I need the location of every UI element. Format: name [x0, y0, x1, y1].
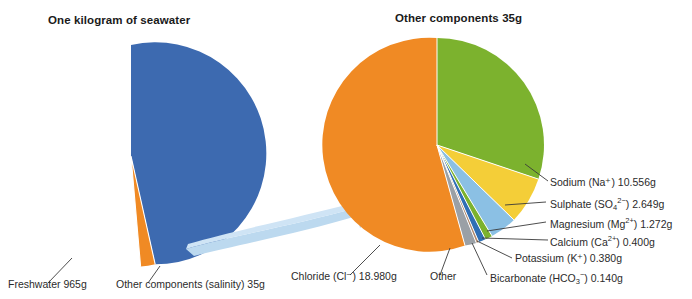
- left-chart-title: One kilogram of seawater: [48, 14, 190, 26]
- label-sulphate: Sulphate (SO42−) 2.649g: [550, 196, 664, 210]
- label-bicarbonate: Bicarbonate (HCO3−) 0.140g: [490, 270, 623, 284]
- label-magnesium-superscript: 2+: [625, 216, 634, 225]
- label-potassium: Potassium (K⁺) 0.380g: [515, 252, 622, 264]
- label-sulphate-suffix: ) 2.649g: [626, 198, 665, 210]
- label-bicarbonate-subscript: 3: [576, 277, 580, 286]
- label-magnesium: Magnesium (Mg2+) 1.272g: [550, 216, 672, 230]
- label-bicarbonate-suffix: ) 0.140g: [584, 272, 623, 284]
- label-freshwater: Freshwater 965g: [8, 278, 87, 290]
- seawater-composition-figure: One kilogram of seawater Other component…: [0, 0, 692, 299]
- label-sulphate-subscript: 4: [613, 203, 617, 212]
- label-sulphate-superscript: 2−: [617, 196, 626, 205]
- leader-line-calcium: [482, 238, 548, 240]
- label-other-components-salinity: Other components (salinity) 35g: [116, 278, 265, 290]
- right-pie-chart: [322, 38, 544, 252]
- label-sodium: Sodium (Na⁺) 10.556g: [550, 176, 656, 188]
- label-bicarbonate-prefix: Bicarbonate (HCO: [490, 272, 576, 284]
- label-magnesium-suffix: ) 1.272g: [634, 218, 673, 230]
- label-other: Other: [430, 270, 456, 282]
- label-calcium-suffix: ) 0.400g: [616, 236, 655, 248]
- right-chart-title: Other components 35g: [395, 12, 522, 24]
- label-magnesium-prefix: Magnesium (Mg: [550, 218, 625, 230]
- label-chloride: Chloride (Cl⁻) 18.980g: [291, 270, 397, 282]
- leader-line-bicarbonate: [472, 243, 487, 275]
- label-sulphate-prefix: Sulphate (SO: [550, 198, 613, 210]
- label-calcium: Calcium (Ca2+) 0.400g: [550, 234, 655, 248]
- label-calcium-prefix: Calcium (Ca: [550, 236, 608, 248]
- leader-line-potassium: [477, 241, 512, 258]
